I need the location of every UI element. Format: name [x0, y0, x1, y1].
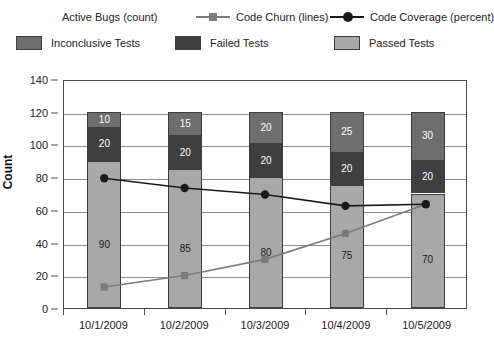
- bar-value-label: 10: [99, 115, 110, 125]
- x-tick-label: 10/2/2009: [160, 320, 209, 331]
- x-tick-mark: [225, 309, 226, 315]
- bar-value-label: 80: [260, 248, 271, 258]
- bar-segment-failed[interactable]: 20: [411, 161, 445, 194]
- legend-row-line-series: Active Bugs (count)Code Churn (lines)Cod…: [0, 4, 480, 30]
- legend-item-label: Passed Tests: [369, 38, 434, 49]
- legend-item-label: Failed Tests: [210, 38, 269, 49]
- y-tick-label: 40: [36, 238, 48, 249]
- x-tick-mark: [144, 309, 145, 315]
- x-tick-mark: [386, 309, 387, 315]
- legend-item-failed-tests[interactable]: Failed Tests: [175, 30, 269, 56]
- bar-segment-passed[interactable]: 75: [330, 185, 364, 308]
- bar-segment-failed[interactable]: 20: [87, 128, 121, 161]
- legend-marker-circle-icon: [330, 10, 364, 24]
- bar-value-label: 75: [341, 251, 352, 261]
- y-tick-mark: [51, 112, 58, 113]
- bar-value-label: 70: [422, 255, 433, 265]
- bar-value-label: 20: [180, 148, 191, 158]
- legend-marker-none-icon: [22, 10, 56, 24]
- bar-segment-failed[interactable]: 20: [168, 136, 202, 169]
- legend-item-code-churn-lines[interactable]: Code Churn (lines): [196, 4, 328, 30]
- y-tick-mark: [51, 276, 58, 277]
- y-tick-mark: [51, 80, 58, 81]
- legend-swatch-icon: [334, 36, 360, 50]
- x-tick-label: 10/5/2009: [402, 320, 451, 331]
- y-axis-title: Count: [1, 155, 15, 190]
- legend-item-active-bugs-count[interactable]: Active Bugs (count): [22, 4, 157, 30]
- bar-stack[interactable]: 702030: [411, 79, 445, 308]
- y-tick-mark: [51, 145, 58, 146]
- bar-segment-inconclusive[interactable]: 20: [249, 112, 283, 145]
- chart-legend: Active Bugs (count)Code Churn (lines)Cod…: [0, 0, 480, 62]
- y-tick-label: 60: [36, 205, 48, 216]
- bar-segment-passed[interactable]: 85: [168, 169, 202, 308]
- y-tick-label: 120: [30, 107, 48, 118]
- y-tick-mark: [51, 210, 58, 211]
- y-tick-mark: [51, 243, 58, 244]
- bar-segment-inconclusive[interactable]: 25: [330, 112, 364, 153]
- bar-segment-passed[interactable]: 70: [411, 194, 445, 309]
- bar-value-label: 20: [260, 156, 271, 166]
- legend-row-bar-series: Inconclusive TestsFailed TestsPassed Tes…: [0, 30, 480, 56]
- legend-item-label: Code Coverage (percent): [370, 12, 494, 23]
- legend-item-label: Active Bugs (count): [62, 12, 157, 23]
- legend-swatch-icon: [175, 36, 201, 50]
- bar-stack[interactable]: 802020: [249, 79, 283, 308]
- bar-value-label: 20: [260, 123, 271, 133]
- bar-segment-passed[interactable]: 90: [87, 161, 121, 308]
- legend-item-passed-tests[interactable]: Passed Tests: [334, 30, 434, 56]
- y-tick-mark: [51, 309, 58, 310]
- y-tick-label: 100: [30, 140, 48, 151]
- x-axis: 10/1/200910/2/200910/3/200910/4/200910/5…: [63, 309, 467, 343]
- y-tick-label: 20: [36, 271, 48, 282]
- legend-item-label: Inconclusive Tests: [51, 38, 140, 49]
- y-tick-mark: [51, 178, 58, 179]
- bar-segment-passed[interactable]: 80: [249, 177, 283, 308]
- legend-item-inconclusive-tests[interactable]: Inconclusive Tests: [16, 30, 140, 56]
- bar-segment-failed[interactable]: 20: [330, 153, 364, 186]
- bar-stack[interactable]: 752025: [330, 79, 364, 308]
- x-tick-label: 10/3/2009: [241, 320, 290, 331]
- bar-value-label: 20: [99, 139, 110, 149]
- y-tick-label: 0: [42, 304, 48, 315]
- x-tick-label: 10/4/2009: [321, 320, 370, 331]
- bar-stack[interactable]: 852015: [168, 79, 202, 308]
- bar-segment-inconclusive[interactable]: 15: [168, 112, 202, 137]
- bar-value-label: 30: [422, 131, 433, 141]
- x-tick-mark: [305, 309, 306, 315]
- bar-value-label: 90: [99, 240, 110, 250]
- x-tick-label: 10/1/2009: [79, 320, 128, 331]
- legend-item-code-coverage-percent[interactable]: Code Coverage (percent): [330, 4, 494, 30]
- plot-area: 902010852015802020752025702030: [63, 80, 467, 309]
- x-tick-mark: [63, 309, 64, 315]
- bar-value-label: 85: [180, 244, 191, 254]
- legend-marker-square-icon: [196, 10, 230, 24]
- bar-segment-inconclusive[interactable]: 10: [87, 112, 121, 128]
- bar-stack[interactable]: 902010: [87, 79, 121, 308]
- y-axis: 020406080100120140: [0, 80, 58, 309]
- bar-value-label: 25: [341, 127, 352, 137]
- legend-swatch-icon: [16, 36, 42, 50]
- bar-value-label: 20: [341, 164, 352, 174]
- bar-segment-inconclusive[interactable]: 30: [411, 112, 445, 161]
- legend-item-label: Code Churn (lines): [236, 12, 328, 23]
- bar-value-label: 20: [422, 172, 433, 182]
- bar-segment-failed[interactable]: 20: [249, 144, 283, 177]
- y-tick-label: 140: [30, 75, 48, 86]
- y-tick-label: 80: [36, 173, 48, 184]
- bar-value-label: 15: [180, 119, 191, 129]
